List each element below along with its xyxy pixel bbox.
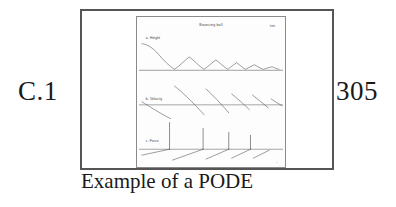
force-ramp-2: [173, 149, 204, 160]
chart-plot-box: Bouncing ball time a. Height b. Velocity: [136, 16, 286, 168]
velocity-segment-1: [142, 102, 171, 119]
panel-force: c. Force t: [139, 123, 283, 164]
chart-title: Bouncing ball: [199, 23, 222, 27]
panel-height: a. Height: [139, 36, 283, 71]
velocity-segment-4: [232, 94, 250, 110]
force-ramp-1: [142, 149, 170, 155]
panel-velocity: b. Velocity: [139, 86, 283, 119]
panel-label-height: a. Height: [146, 36, 160, 40]
bouncing-ball-chart: Bouncing ball time a. Height b. Velocity: [137, 17, 285, 167]
velocity-segment-2: [174, 86, 204, 115]
force-ramp-5: [253, 150, 269, 158]
page-number: 305: [336, 78, 378, 105]
chart-corner-label: time: [270, 24, 276, 28]
figure-caption: Example of a PODE: [81, 170, 253, 193]
height-curve: [142, 44, 279, 70]
panel-label-force: c. Force: [146, 139, 159, 143]
force-ramp-3: [206, 149, 229, 159]
axis-end-tick-label: t: [276, 161, 277, 164]
velocity-segment-3: [206, 89, 229, 113]
velocity-segment-5: [252, 95, 268, 108]
figure-frame: Bouncing ball time a. Height b. Velocity: [80, 9, 334, 170]
section-label: C.1: [18, 78, 58, 105]
force-ramp-4: [232, 149, 251, 158]
panel-label-velocity: b. Velocity: [146, 97, 163, 101]
